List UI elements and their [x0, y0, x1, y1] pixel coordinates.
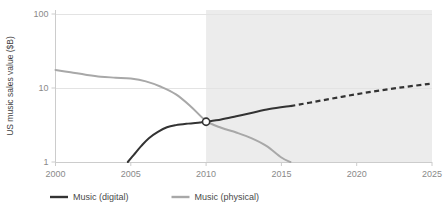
chart-container: 100101 200020052010201520202025 US music…: [0, 0, 446, 211]
y-axis-title: US music sales value ($B): [5, 36, 15, 136]
x-tick-label-2010: 2010: [196, 169, 216, 179]
crossover-point: [203, 118, 210, 125]
y-tick-label-10: 10: [38, 83, 48, 93]
crossover-marker: [203, 118, 210, 125]
legend-label-0: Music (digital): [73, 192, 129, 202]
y-tick-label-1: 1: [43, 157, 48, 167]
forecast-shaded-region: [206, 10, 432, 163]
legend-label-1: Music (physical): [195, 192, 260, 202]
x-tick-label-2000: 2000: [45, 169, 65, 179]
x-tick-label-2005: 2005: [121, 169, 141, 179]
x-tick-label-2015: 2015: [271, 169, 291, 179]
line-chart: 100101 200020052010201520202025 US music…: [0, 0, 446, 211]
x-tick-label-2025: 2025: [422, 169, 442, 179]
forecast-band-rect: [206, 10, 432, 163]
x-tick-label-2020: 2020: [347, 169, 367, 179]
y-tick-label-100: 100: [33, 9, 48, 19]
